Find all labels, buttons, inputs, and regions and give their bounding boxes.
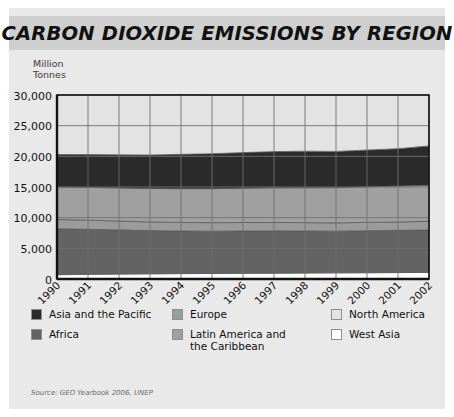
legend-column-3: North AmericaWest Asia [331, 308, 425, 347]
legend-label-europe: Europe [190, 308, 227, 321]
x-tick-label: 2001 [376, 279, 403, 306]
x-tick-label: 1996 [221, 279, 249, 307]
legend-swatch-north-america [331, 309, 342, 320]
legend-swatch-latin-america-and-the-caribbean [172, 329, 183, 340]
y-tick-label: 20,000 [14, 151, 53, 164]
legend-label-north-america: North America [349, 308, 425, 321]
x-tick-label: 1998 [283, 279, 310, 306]
x-tick-label: 2002 [407, 279, 434, 306]
x-tick-label: 1995 [190, 279, 217, 306]
x-tick-label: 2000 [345, 279, 372, 306]
x-tick-label: 1993 [128, 279, 155, 306]
legend-item-west-asia[interactable]: West Asia [331, 328, 425, 341]
legend-label-africa: Africa [49, 328, 79, 341]
legend-column-1: Asia and the PacificAfrica [31, 308, 151, 347]
y-tick-label: 5,000 [21, 243, 53, 256]
source-note: Source: GEO Yearbook 2006, UNEP [31, 389, 153, 397]
x-tick-label: 1991 [66, 279, 93, 306]
legend-swatch-europe [172, 309, 183, 320]
legend-swatch-west-asia [331, 329, 342, 340]
y-tick-label: 15,000 [14, 182, 53, 195]
x-tick-label: 1992 [97, 279, 124, 306]
y-tick-label: 25,000 [14, 120, 53, 133]
x-tick-label: 1997 [252, 279, 279, 306]
chart-legend: Asia and the PacificAfricaEuropeLatin Am… [31, 308, 445, 378]
legend-label-west-asia: West Asia [349, 328, 400, 341]
legend-item-north-america[interactable]: North America [331, 308, 425, 321]
chart-page: CARBON DIOXIDE EMISSIONS BY REGION Milli… [0, 0, 454, 417]
legend-swatch-asia-and-the-pacific [31, 309, 42, 320]
legend-item-latin-america-and-the-caribbean[interactable]: Latin America and the Caribbean [172, 328, 298, 353]
legend-label-latin-america-and-the-caribbean: Latin America and the Caribbean [190, 328, 298, 353]
legend-swatch-africa [31, 329, 42, 340]
x-tick-label: 1990 [35, 279, 62, 306]
legend-column-2: EuropeLatin America and the Caribbean [172, 308, 298, 360]
legend-item-europe[interactable]: Europe [172, 308, 298, 321]
legend-item-africa[interactable]: Africa [31, 328, 151, 341]
x-tick-label: 1999 [314, 279, 341, 306]
legend-item-asia-and-the-pacific[interactable]: Asia and the Pacific [31, 308, 151, 321]
y-tick-label: 10,000 [14, 212, 53, 225]
x-tick-label: 1994 [159, 279, 187, 307]
y-tick-label: 30,000 [14, 90, 53, 103]
chart-card: CARBON DIOXIDE EMISSIONS BY REGION Milli… [9, 8, 445, 409]
legend-label-asia-and-the-pacific: Asia and the Pacific [49, 308, 151, 321]
